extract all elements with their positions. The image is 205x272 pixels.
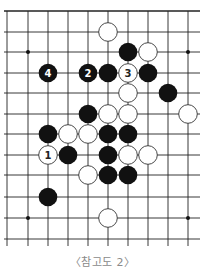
white-stone [79, 125, 98, 144]
go-board: 4231 [0, 0, 205, 250]
white-stone [99, 23, 118, 42]
white-stone [119, 146, 138, 165]
black-stone [99, 166, 118, 185]
black-stone [159, 84, 178, 103]
white-stone: 3 [119, 64, 138, 83]
black-stone [99, 146, 118, 165]
black-stone [39, 188, 58, 207]
white-stone [79, 166, 98, 185]
black-stone [99, 64, 118, 83]
black-stone: 2 [79, 64, 98, 83]
black-stone: 4 [39, 64, 58, 83]
black-stone [139, 64, 158, 83]
star-point [26, 216, 30, 220]
star-point [26, 50, 30, 54]
star-point [186, 50, 190, 54]
black-stone [119, 166, 138, 185]
white-stone: 1 [39, 146, 58, 165]
white-stone [139, 43, 158, 62]
black-stone [39, 125, 58, 144]
move-number-label: 2 [85, 68, 92, 79]
black-stone [79, 105, 98, 124]
diagram-caption: 〈참고도 2〉 [0, 253, 205, 269]
black-stone [119, 125, 138, 144]
move-number-label: 4 [45, 68, 52, 79]
white-stone [99, 209, 118, 228]
white-stone [99, 105, 118, 124]
white-stone [119, 105, 138, 124]
star-point [186, 216, 190, 220]
white-stone [59, 125, 78, 144]
black-stone [119, 43, 138, 62]
white-stone [139, 146, 158, 165]
move-number-label: 3 [125, 68, 132, 79]
move-number-label: 1 [45, 150, 52, 161]
white-stone [119, 84, 138, 103]
white-stone [179, 105, 198, 124]
black-stone [59, 146, 78, 165]
black-stone [99, 125, 118, 144]
